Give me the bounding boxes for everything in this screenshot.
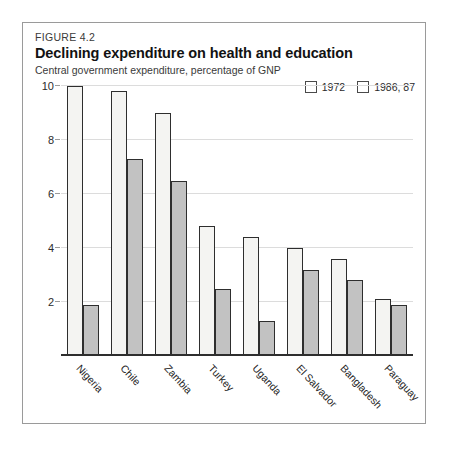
- bar-group: [149, 86, 193, 356]
- bar-el-salvador-1972: [287, 248, 303, 356]
- y-tick-mark: [55, 139, 60, 140]
- y-tick-label: 4: [48, 242, 54, 254]
- bar-group: [237, 86, 281, 356]
- figure-number: FIGURE 4.2: [35, 31, 95, 43]
- bar-bangladesh-1972: [331, 259, 347, 356]
- bar-uganda-1986-87: [259, 321, 275, 356]
- y-tick-label: 10: [42, 80, 54, 92]
- x-axis-label-paraguay: Paraguay: [382, 362, 421, 403]
- x-axis-label-zambia: Zambia: [162, 362, 195, 396]
- bar-group: [325, 86, 369, 356]
- y-tick-mark: [55, 85, 60, 86]
- bar-paraguay-1986-87: [391, 305, 407, 356]
- y-tick-label: 6: [48, 188, 54, 200]
- y-tick-mark: [55, 247, 60, 248]
- x-axis-label-uganda: Uganda: [250, 362, 284, 397]
- bar-paraguay-1972: [375, 299, 391, 356]
- bars-container: [61, 86, 413, 356]
- x-label-cell: El Salvador: [281, 359, 325, 439]
- bar-group: [61, 86, 105, 356]
- bar-zambia-1986-87: [171, 181, 187, 357]
- figure-subtitle: Central government expenditure, percenta…: [35, 64, 281, 76]
- x-axis-label-chile: Chile: [118, 362, 143, 388]
- y-tick-mark: [55, 193, 60, 194]
- bar-nigeria-1972: [67, 86, 83, 356]
- bar-el-salvador-1986-87: [303, 270, 319, 356]
- x-label-cell: Nigeria: [61, 359, 105, 439]
- x-axis-label-nigeria: Nigeria: [74, 362, 105, 395]
- bar-bangladesh-1986-87: [347, 280, 363, 356]
- bar-turkey-1972: [199, 226, 215, 356]
- y-tick-label: 2: [48, 296, 54, 308]
- x-axis-labels: NigeriaChileZambiaTurkeyUgandaEl Salvado…: [61, 359, 413, 439]
- bar-group: [193, 86, 237, 356]
- x-label-cell: Bangladesh: [325, 359, 369, 439]
- x-label-cell: Zambia: [149, 359, 193, 439]
- x-label-cell: Paraguay: [369, 359, 413, 439]
- bar-uganda-1972: [243, 237, 259, 356]
- bar-nigeria-1986-87: [83, 305, 99, 356]
- x-axis-label-turkey: Turkey: [206, 362, 236, 393]
- figure-frame: FIGURE 4.2 Declining expenditure on heal…: [22, 22, 426, 424]
- y-tick-mark: [55, 301, 60, 302]
- bar-turkey-1986-87: [215, 289, 231, 357]
- bar-group: [281, 86, 325, 356]
- x-axis-line: [61, 354, 413, 356]
- y-tick-label: 8: [48, 134, 54, 146]
- bar-zambia-1972: [155, 113, 171, 356]
- figure-title: Declining expenditure on health and educ…: [35, 45, 353, 61]
- bar-chile-1986-87: [127, 159, 143, 356]
- bar-group: [369, 86, 413, 356]
- x-label-cell: Turkey: [193, 359, 237, 439]
- bar-chile-1972: [111, 91, 127, 356]
- plot-area: 246810: [61, 86, 413, 356]
- x-label-cell: Uganda: [237, 359, 281, 439]
- x-label-cell: Chile: [105, 359, 149, 439]
- bar-group: [105, 86, 149, 356]
